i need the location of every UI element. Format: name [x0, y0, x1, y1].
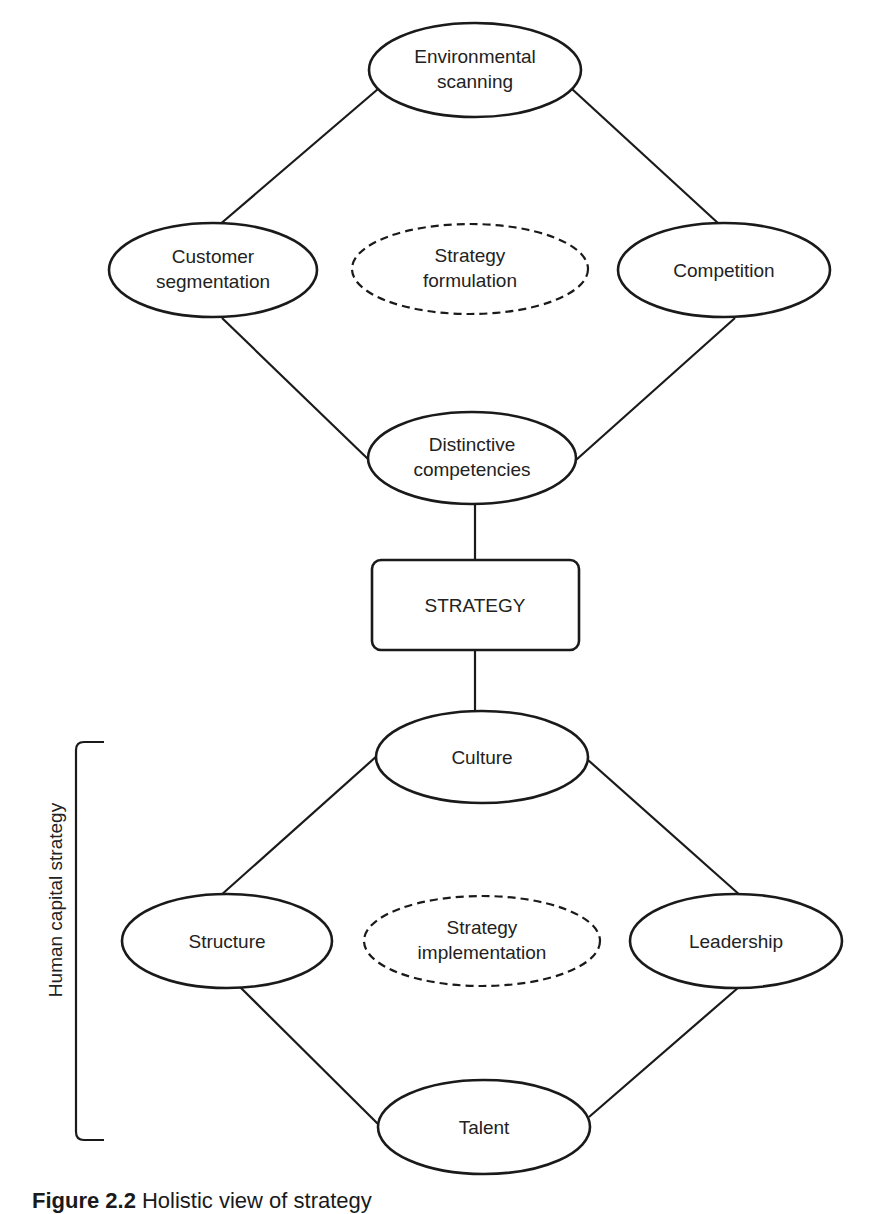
svg-text:Leadership: Leadership [689, 931, 783, 952]
node-strategy-formulation: Strategy formulation [352, 224, 588, 314]
svg-text:implementation: implementation [418, 942, 547, 963]
svg-text:Competition: Competition [673, 260, 774, 281]
edge-customer-distinctive [222, 318, 369, 460]
svg-text:Strategy: Strategy [435, 245, 506, 266]
node-culture: Culture [376, 711, 588, 803]
svg-text:Talent: Talent [459, 1117, 510, 1138]
svg-text:Culture: Culture [451, 747, 512, 768]
edge-culture-structure [220, 755, 378, 896]
svg-text:Distinctive: Distinctive [429, 434, 516, 455]
svg-text:formulation: formulation [423, 270, 517, 291]
node-leadership: Leadership [630, 894, 842, 988]
edge-leadership-talent [589, 987, 739, 1117]
edge-env-customer [218, 89, 378, 226]
node-talent: Talent [378, 1080, 590, 1174]
human-capital-bracket [76, 742, 104, 1140]
svg-text:Strategy: Strategy [447, 917, 518, 938]
edge-culture-leadership [588, 760, 741, 896]
figure-title: Holistic view of strategy [142, 1188, 372, 1213]
node-competition: Competition [618, 223, 830, 317]
svg-text:Environmental: Environmental [414, 46, 535, 67]
node-distinctive-competencies: Distinctive competencies [368, 412, 576, 504]
edge-structure-talent [240, 987, 379, 1125]
svg-text:scanning: scanning [437, 71, 513, 92]
svg-text:Customer: Customer [172, 246, 255, 267]
bracket-label: Human capital strategy [45, 802, 66, 997]
node-customer-segmentation: Customer segmentation [109, 223, 317, 317]
svg-text:competencies: competencies [413, 459, 530, 480]
edge-competition-distinctive [576, 318, 735, 460]
svg-text:STRATEGY: STRATEGY [425, 595, 526, 616]
node-structure: Structure [122, 894, 332, 988]
strategy-box: STRATEGY [372, 560, 579, 650]
svg-text:Structure: Structure [188, 931, 265, 952]
svg-text:segmentation: segmentation [156, 271, 270, 292]
node-environmental-scanning: Environmental scanning [369, 23, 581, 117]
figure-caption: Figure 2.2Holistic view of strategy [32, 1188, 372, 1214]
figure-number: Figure 2.2 [32, 1188, 136, 1213]
node-strategy-implementation: Strategy implementation [364, 896, 600, 986]
edge-env-competition [572, 89, 719, 224]
